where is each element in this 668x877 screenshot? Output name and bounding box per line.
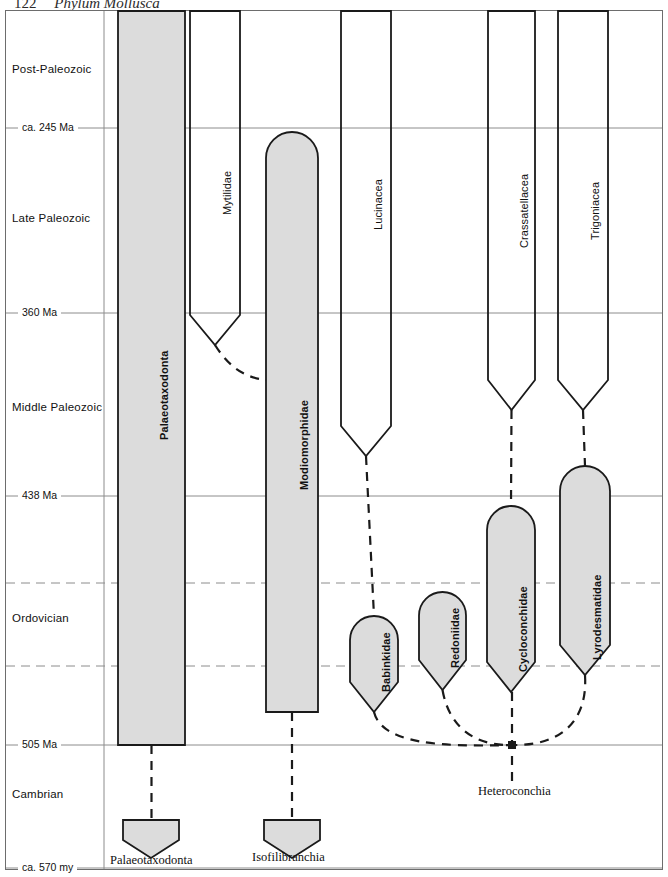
taxon-label-crassatellacea: Crassatellacea xyxy=(518,174,530,248)
range-bar xyxy=(341,11,391,456)
taxon-label-modiomorphidae: Modiomorphidae xyxy=(298,400,310,490)
time-tick-label: 505 Ma xyxy=(18,738,61,750)
range-bar xyxy=(266,132,318,712)
clade-shield-label: Isofilibranchia xyxy=(252,850,325,865)
taxon-label-redoniidae: Redoniidae xyxy=(449,608,461,668)
taxon-label-cycloconchidae: Cycloconchidae xyxy=(517,586,529,672)
time-tick-label: ca. 570 my xyxy=(18,861,77,873)
taxon-label-mytilidae: Mytilidae xyxy=(221,171,233,215)
range-bar-group xyxy=(118,11,610,745)
taxon-label-lyrodesmatidae: Lyrodesmatidae xyxy=(591,575,603,660)
time-tick-label: ca. 245 Ma xyxy=(18,121,78,133)
phylogeny-connector xyxy=(215,345,266,380)
era-label-late-paleozoic: Late Paleozoic xyxy=(12,212,90,224)
phylogeny-connector xyxy=(366,456,374,616)
phylogeny-connector xyxy=(374,712,512,745)
era-label-cambrian: Cambrian xyxy=(12,788,63,800)
phylogeny-connector xyxy=(583,410,585,466)
era-label-post-paleozoic: Post-Paleozoic xyxy=(12,63,92,75)
clade-shield-label: Palaeotaxodonta xyxy=(110,853,193,868)
phylogeny-connector xyxy=(511,410,512,506)
phylogeny-connector xyxy=(512,675,585,745)
taxon-label-trigoniacea: Trigoniacea xyxy=(589,182,601,240)
gridline-group xyxy=(6,11,662,869)
clade-label-heteroconchia: Heteroconchia xyxy=(478,784,551,799)
heteroconchia-node xyxy=(508,741,516,749)
figure-page: 122 Phylum Mollusca Post-PaleozoicLate P… xyxy=(0,0,668,877)
range-chart-svg xyxy=(0,0,668,877)
phylogeny-connector xyxy=(443,690,513,745)
taxon-label-babinkidae: Babinkidae xyxy=(380,632,392,692)
taxon-label-palaeotaxodonta: Palaeotaxodonta xyxy=(158,350,170,440)
time-tick-label: 438 Ma xyxy=(18,489,61,501)
era-label-ordovician: Ordovician xyxy=(12,612,69,624)
range-bar xyxy=(118,11,185,745)
time-tick-label: 360 Ma xyxy=(18,306,61,318)
taxon-label-lucinacea: Lucinacea xyxy=(372,179,384,230)
era-label-middle-paleozoic: Middle Paleozoic xyxy=(12,401,102,413)
